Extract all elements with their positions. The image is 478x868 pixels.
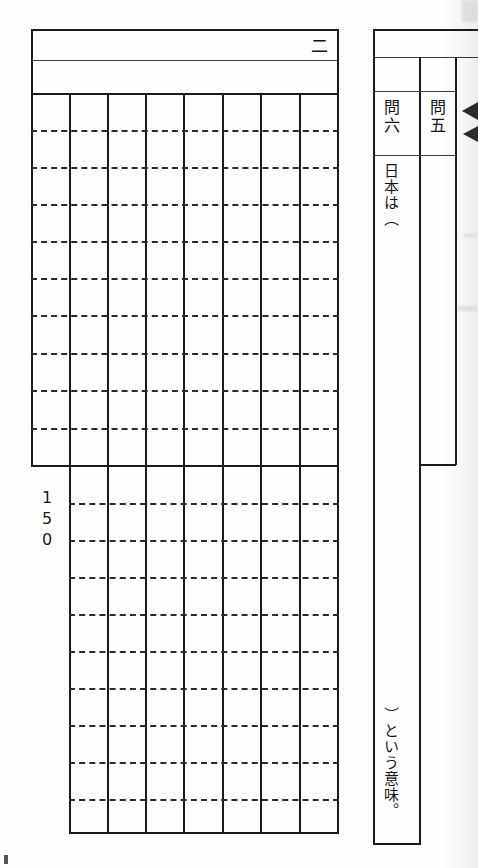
- upper-grid-row-rule-2: [31, 167, 339, 169]
- lower-grid-row-rule-4: [69, 614, 339, 616]
- upper-grid-row-rule-9: [31, 428, 339, 430]
- strip-label-band-bottom-rule: [373, 155, 455, 156]
- upper-grid-row-rule-7: [31, 353, 339, 355]
- scan-speck-bottom-left: [4, 855, 8, 864]
- lower-grid-row-rule-1: [69, 503, 339, 505]
- scan-smudge-mid: [458, 306, 478, 311]
- upper-grid-row-rule-3: [31, 204, 339, 206]
- binding-mark-upper: [462, 102, 478, 120]
- grid-step-rule: [31, 465, 339, 467]
- lower-grid-col-rule-7: [337, 465, 339, 834]
- upper-grid-row-rule-8: [31, 390, 339, 392]
- upper-grid-row-rule-6: [31, 315, 339, 317]
- upper-grid-row-rule-1: [31, 130, 339, 132]
- header-bottom-rule: [31, 93, 339, 95]
- question-6-column-bottom-rule: [373, 843, 420, 845]
- lower-grid-col-rule-1: [107, 465, 109, 834]
- answer-6-bottom[interactable]: ）という意味。: [380, 707, 400, 819]
- upper-grid-row-rule-5: [31, 278, 339, 280]
- char-count-digit-2: 0: [34, 529, 60, 550]
- lower-grid-row-rule-5: [69, 651, 339, 653]
- question-label-5: 問五: [426, 99, 447, 135]
- strip-header-bottom-rule: [373, 57, 478, 58]
- char-count-digit-1: 5: [34, 508, 60, 529]
- question-label-6: 問六: [380, 99, 401, 135]
- strip-col-rule-mid: [419, 57, 421, 845]
- strip-label-band-top-rule: [373, 91, 455, 92]
- composition-answer-grid: 二 1 5 0: [0, 0, 360, 868]
- char-count-digit-0: 1: [34, 487, 60, 508]
- lower-grid-col-rule-0: [69, 465, 71, 834]
- strip-col-rule-left: [373, 29, 375, 845]
- section-number-label: 二: [311, 38, 328, 55]
- scan-smudge-top: [462, 0, 478, 22]
- strip-header-top-rule: [373, 29, 478, 31]
- header-left-rule: [31, 29, 33, 94]
- lower-grid-col-rule-5: [260, 465, 262, 834]
- header-divider-rule: [31, 60, 339, 61]
- lower-grid-row-rule-3: [69, 577, 339, 579]
- upper-grid-row-rule-4: [31, 241, 339, 243]
- lower-grid-row-rule-8: [69, 762, 339, 764]
- lower-grid-row-rule-7: [69, 725, 339, 727]
- binding-mark-lower: [463, 126, 478, 142]
- char-count-label: 1 5 0: [34, 487, 60, 550]
- lower-grid-col-rule-4: [222, 465, 224, 834]
- lower-grid-row-rule-9: [69, 799, 339, 801]
- scan-smudge-dash: [464, 234, 478, 237]
- header-right-rule: [337, 29, 339, 94]
- short-answer-columns: 問六 問五 日本は（ ）という意味。: [360, 0, 478, 868]
- lower-grid-col-rule-2: [145, 465, 147, 834]
- strip-col-rule-right: [455, 57, 457, 465]
- question-5-column-bottom-rule: [419, 464, 456, 466]
- header-top-rule: [31, 29, 339, 31]
- lower-grid-col-rule-3: [183, 465, 185, 834]
- lower-grid-row-rule-2: [69, 540, 339, 542]
- lower-grid-row-rule-6: [69, 688, 339, 690]
- lower-grid-bottom-rule: [69, 832, 339, 834]
- answer-6-top[interactable]: 日本は（: [380, 163, 400, 227]
- lower-grid-col-rule-6: [299, 465, 301, 834]
